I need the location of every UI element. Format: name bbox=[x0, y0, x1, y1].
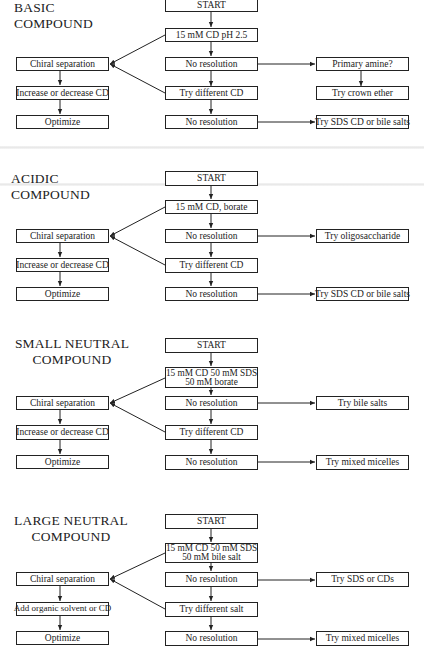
start-box: START bbox=[165, 171, 258, 186]
alternative-box: Try mixed micelles bbox=[316, 631, 409, 646]
title-line: COMPOUND bbox=[12, 529, 130, 545]
no-resolution-box: No resolution bbox=[165, 287, 258, 301]
title-line: LARGE NEUTRAL bbox=[12, 513, 130, 529]
try-different-box: Try different CD bbox=[165, 86, 258, 100]
adjust-box: Increase or decrease CD bbox=[16, 258, 109, 272]
no-resolution-box: No resolution bbox=[165, 455, 258, 470]
initial-condition-box: 15 mM CD 50 mM SDS 50 mM bile salt bbox=[165, 543, 258, 563]
alternative-box: Try SDS CD or bile salts bbox=[316, 115, 409, 129]
initial-condition-box: 15 mM CD 50 mM SDS 50 mM borate bbox=[165, 367, 258, 388]
initial-condition-box: 15 mM CD, borate bbox=[165, 200, 258, 214]
try-different-box: Try different CD bbox=[165, 258, 258, 273]
no-resolution-box: No resolution bbox=[165, 631, 258, 646]
optimize-box: Optimize bbox=[16, 631, 109, 645]
alternative-box: Try mixed micelles bbox=[316, 455, 409, 470]
section-title: SMALL NEUTRAL COMPOUND bbox=[12, 336, 132, 368]
adjust-box: Increase or decrease CD bbox=[16, 86, 109, 100]
condition-line: 50 mM bile salt bbox=[182, 553, 241, 562]
initial-condition-box: 15 mM CD pH 2.5 bbox=[165, 28, 258, 42]
section-title: BASIC COMPOUND bbox=[14, 0, 134, 32]
alternative-box: Try bile salts bbox=[316, 396, 409, 410]
condition-line: 50 mM borate bbox=[185, 378, 238, 387]
title-line: COMPOUND bbox=[12, 352, 132, 368]
chiral-separation-box: Chiral separation bbox=[16, 57, 109, 71]
start-box: START bbox=[165, 338, 258, 353]
optimize-box: Optimize bbox=[16, 115, 109, 129]
optimize-box: Optimize bbox=[16, 287, 109, 301]
optimize-box: Optimize bbox=[16, 455, 109, 469]
alternative-box: Try SDS CD or bile salts bbox=[316, 287, 409, 301]
chiral-separation-box: Chiral separation bbox=[16, 396, 109, 410]
alternative-box: Try crown ether bbox=[316, 86, 409, 100]
start-box: START bbox=[165, 0, 258, 12]
section-title: LARGE NEUTRAL COMPOUND bbox=[12, 513, 130, 545]
no-resolution-box: No resolution bbox=[165, 57, 258, 71]
adjust-box: Increase or decrease CD bbox=[16, 425, 109, 440]
no-resolution-box: No resolution bbox=[165, 572, 258, 587]
try-different-box: Try different CD bbox=[165, 425, 258, 440]
try-different-box: Try different salt bbox=[165, 602, 258, 617]
adjust-box: Add organic solvent or CD bbox=[16, 602, 109, 616]
title-line: ACIDIC COMPOUND bbox=[11, 171, 90, 202]
chiral-separation-box: Chiral separation bbox=[16, 229, 109, 243]
alternative-box: Primary amine? bbox=[316, 57, 409, 71]
section-title: ACIDIC COMPOUND bbox=[11, 171, 136, 203]
title-line: SMALL NEUTRAL bbox=[12, 336, 132, 352]
no-resolution-box: No resolution bbox=[165, 396, 258, 410]
no-resolution-box: No resolution bbox=[165, 229, 258, 243]
title-line: BASIC COMPOUND bbox=[14, 0, 93, 31]
no-resolution-box: No resolution bbox=[165, 115, 258, 129]
alternative-box: Try oligosaccharide bbox=[316, 229, 409, 243]
chiral-separation-box: Chiral separation bbox=[16, 572, 109, 586]
alternative-box: Try SDS or CDs bbox=[316, 572, 409, 587]
start-box: START bbox=[165, 514, 258, 529]
